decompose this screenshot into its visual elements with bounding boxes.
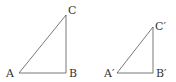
vertex-label-b: B — [69, 67, 77, 80]
vertex-label-b-prime: B′ — [156, 67, 167, 80]
triangle-abc — [19, 15, 66, 73]
triangle-a-prime-b-prime-c-prime — [117, 27, 153, 73]
diagram-canvas: A B C A′ B′ C′ — [0, 0, 176, 82]
vertex-label-c: C — [68, 4, 76, 17]
vertex-label-a: A — [5, 67, 15, 80]
vertex-label-a-prime: A′ — [103, 67, 115, 80]
vertex-label-c-prime: C′ — [155, 20, 166, 33]
